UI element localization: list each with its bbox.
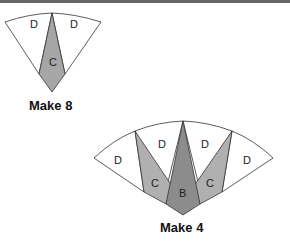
label-d4: D (243, 154, 251, 166)
label-d3: D (201, 138, 209, 150)
label-d-left: D (30, 18, 38, 30)
caption-make-8: Make 8 (29, 98, 72, 113)
fan-block-small (5, 13, 101, 92)
label-d1: D (114, 154, 122, 166)
label-d-right: D (70, 18, 78, 30)
diagrams: D D C D D D D C C B (0, 0, 290, 243)
fan-block-large (94, 121, 273, 215)
label-c: C (49, 56, 57, 68)
label-c-left: C (151, 177, 159, 189)
label-c-right: C (206, 177, 214, 189)
label-d2: D (158, 138, 166, 150)
caption-make-4: Make 4 (160, 220, 203, 235)
label-b: B (179, 187, 186, 199)
